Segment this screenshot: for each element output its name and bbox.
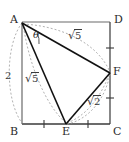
- measure-label-AF: √5: [68, 30, 82, 41]
- tick-marks: [44, 48, 114, 128]
- vertex-label-A: A: [10, 14, 18, 25]
- radical-num-AE: 5: [31, 72, 39, 84]
- figure-canvas: [0, 0, 129, 142]
- radical-num-AF: 5: [74, 29, 82, 41]
- measure-label-EF: √2: [87, 96, 101, 107]
- vertex-label-E: E: [62, 126, 70, 137]
- measure-label-AE: √5: [25, 73, 39, 84]
- geometry-figure: A D B C E F θ 2 √5 √5 √2: [0, 0, 129, 142]
- vertex-label-F: F: [113, 66, 121, 77]
- angle-label-theta: θ: [33, 30, 39, 40]
- radical-num-EF: 2: [93, 95, 101, 107]
- vertex-label-D: D: [114, 14, 123, 25]
- vertex-label-B: B: [10, 126, 18, 137]
- measure-label-AB: 2: [5, 71, 11, 81]
- vertex-label-C: C: [113, 126, 121, 137]
